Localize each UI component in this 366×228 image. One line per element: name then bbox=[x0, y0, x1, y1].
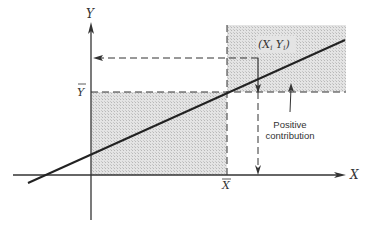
annotation-line-2: contribution bbox=[265, 130, 314, 141]
annotation-line-1: Positive bbox=[273, 119, 306, 130]
y-axis-label: Y bbox=[86, 7, 95, 21]
x-axis-label: X bbox=[349, 168, 359, 182]
lower-left-shaded-region bbox=[91, 92, 227, 175]
x-mean-label: X bbox=[221, 179, 231, 192]
down-arrow-icon bbox=[255, 165, 261, 175]
svg-text:(Xi Yi): (Xi Yi) bbox=[258, 38, 290, 52]
covariance-diagram: Y X Y X (Xi Yi) Positive contribution bbox=[0, 0, 366, 228]
y-mean-label: Y bbox=[77, 86, 86, 99]
point-label: (Xi Yi) bbox=[256, 36, 296, 52]
